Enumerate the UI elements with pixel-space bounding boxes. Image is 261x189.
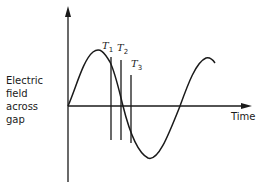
marker-label-t1: T1: [102, 40, 113, 54]
marker-label-t2: T2: [117, 42, 128, 56]
y-axis-label: Electric field across gap: [6, 74, 43, 126]
y-axis-label-line: Electric: [6, 74, 43, 87]
y-axis-arrow-icon: [65, 6, 71, 17]
y-axis-label-line: gap: [6, 113, 43, 126]
y-axis-label-line: across: [6, 100, 43, 113]
x-axis-label: Time: [231, 111, 255, 122]
x-axis-arrow-icon: [241, 103, 252, 109]
y-axis-label-line: field: [6, 87, 43, 100]
marker-label-t3: T3: [131, 58, 142, 72]
